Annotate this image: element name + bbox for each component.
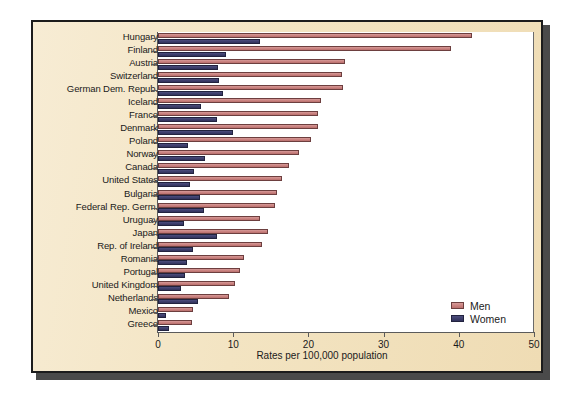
x-axis-tick [459,332,460,337]
y-axis-label: Uruguay [123,214,158,225]
bar-men [158,190,277,195]
bar-row: Federal Rep. Germ. [33,202,541,215]
bar-men [158,281,235,286]
figure-root: HungaryFinlandAustriaSwitzerlandGerman D… [0,0,575,398]
y-axis-tick [151,312,157,313]
bar-men [158,242,262,247]
bar-row: Iceland [33,97,541,110]
bar-women [158,78,219,83]
bar-women [158,247,193,252]
chart-legend: Men Women [451,299,506,325]
bar-men [158,294,229,299]
x-axis-tick [233,332,234,337]
bar-men [158,111,318,116]
y-axis-label: Canada [125,161,158,172]
legend-swatch-women-icon [451,315,464,322]
bar-row: Norway [33,149,541,162]
y-axis-label: Austria [129,57,158,68]
y-axis-tick [151,77,157,78]
y-axis-label: Poland [129,135,158,146]
bar-men [158,150,299,155]
bar-women [158,169,194,174]
y-axis-label: Hungary [123,31,158,42]
y-axis-tick [151,299,157,300]
x-axis-tick-label: 30 [378,339,389,350]
y-axis-tick [151,64,157,65]
bar-men [158,176,282,181]
y-axis-tick [151,51,157,52]
bar-women [158,117,217,122]
x-axis-tick [308,332,309,337]
bar-women [158,221,184,226]
bar-men [158,229,268,234]
y-axis-tick [151,142,157,143]
y-axis-label: Rep. of Ireland [97,240,158,251]
bar-row: Finland [33,45,541,58]
x-axis-tick-label: 10 [228,339,239,350]
bar-rows: HungaryFinlandAustriaSwitzerlandGerman D… [33,32,541,332]
y-axis-label: Norway [126,148,158,159]
y-axis-tick [151,129,157,130]
bar-row: France [33,110,541,123]
bar-women [158,234,217,239]
y-axis-tick [151,247,157,248]
y-axis-tick [151,221,157,222]
legend-label-women: Women [470,313,506,325]
y-axis-label: Greece [127,318,158,329]
figure-frame: HungaryFinlandAustriaSwitzerlandGerman D… [31,20,543,373]
bar-women [158,313,166,318]
x-axis-tick-label: 40 [453,339,464,350]
bar-row: Denmark [33,123,541,136]
bar-men [158,72,342,77]
bar-row: Romania [33,254,541,267]
bar-men [158,163,289,168]
x-axis-tick [534,332,535,337]
x-axis-tick-label: 0 [155,339,161,350]
y-axis-label: Bulgaria [124,188,158,199]
y-axis-tick [151,208,157,209]
y-axis-label: Mexico [129,305,159,316]
x-axis-tick [384,332,385,337]
y-axis-tick [151,325,157,326]
bar-men [158,320,192,325]
y-axis-label: Switzerland [110,70,158,81]
x-axis-title: Rates per 100,000 population [33,350,541,361]
y-axis-label: United Kingdom [92,279,158,290]
y-axis-tick [151,155,157,156]
bar-men [158,46,451,51]
y-axis-tick [151,195,157,196]
bar-men [158,85,343,90]
y-axis-label: Finland [128,44,158,55]
bar-women [158,52,226,57]
bar-men [158,216,260,221]
bar-women [158,208,204,213]
bar-row: Rep. of Ireland [33,241,541,254]
legend-item-women: Women [451,312,506,325]
bar-men [158,137,311,142]
y-axis-label: Japan [133,227,158,238]
y-axis-label: Iceland [128,96,158,107]
bar-row: Poland [33,136,541,149]
x-axis-tick [158,332,159,337]
bar-row: United States [33,175,541,188]
y-axis-tick [151,181,157,182]
bar-women [158,286,181,291]
bar-men [158,59,345,64]
bar-row: Hungary [33,32,541,45]
bar-men [158,268,240,273]
y-axis-label: Netherlands [108,292,158,303]
y-axis-tick [151,103,157,104]
bar-men [158,33,472,38]
y-axis-label: Romania [121,253,158,264]
x-axis-line [157,332,535,333]
bar-women [158,195,200,200]
y-axis-label: German Dem. Repub. [67,83,158,94]
y-axis-label: United States [102,174,158,185]
legend-swatch-men-icon [451,302,464,309]
x-axis-title-label: Rates per 100,000 population [256,350,387,361]
y-axis-tick [151,273,157,274]
y-axis-tick [151,168,157,169]
y-axis-tick [151,38,157,39]
legend-label-men: Men [470,300,490,312]
y-axis-label: France [129,109,158,120]
